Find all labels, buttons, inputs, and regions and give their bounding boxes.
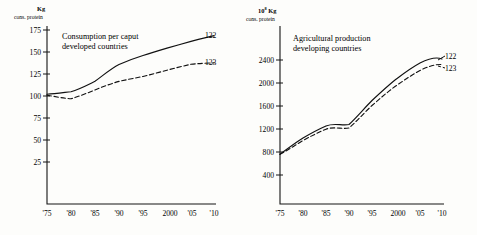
left-xtick-90: '90 xyxy=(115,209,124,218)
right-leader-123 xyxy=(438,66,445,68)
right-ytick-2400: 2400 xyxy=(259,56,274,65)
right-series-label-122: 122 xyxy=(445,52,457,61)
right-xtick-90: '90 xyxy=(345,209,354,218)
left-series-label-123: 123 xyxy=(205,58,217,67)
right-xtick-75: '75 xyxy=(276,209,285,218)
right-ytick-400: 400 xyxy=(263,171,275,180)
left-series-label-122: 122 xyxy=(205,31,217,40)
right-axis-unit-kg: Kg xyxy=(268,7,277,14)
right-xtick-2000: 2000 xyxy=(390,209,405,218)
right-series-label-123: 123 xyxy=(445,64,457,73)
left-axis-unit-sub: cons. protein xyxy=(14,14,43,20)
chart-panel-right: 108 Kg cons. protein 2400 2000 1600 1200… xyxy=(238,0,476,235)
left-xtick-95: '95 xyxy=(139,209,148,218)
chart-panel-left: Kg cons. protein 175 150 125 100 75 50 2… xyxy=(0,0,238,235)
left-ytick-100: 100 xyxy=(30,92,42,101)
left-chart-title-line1: Consumption per caput xyxy=(62,32,139,41)
right-chart-title-line1: Agricultural production xyxy=(293,34,371,43)
right-series-123-line xyxy=(280,64,442,154)
right-chart-title-line2: developing countries xyxy=(293,44,361,53)
right-ytick-1600: 1600 xyxy=(259,102,274,111)
left-chart-title-line2: developed countries xyxy=(62,42,128,51)
right-xtick-80: '80 xyxy=(299,209,308,218)
left-ytick-25: 25 xyxy=(33,158,41,167)
left-ytick-175: 175 xyxy=(30,26,42,35)
left-series-123-line xyxy=(47,63,214,99)
right-xtick-95: '95 xyxy=(368,209,377,218)
left-axes xyxy=(47,26,216,204)
left-ytick-125: 125 xyxy=(30,70,42,79)
left-xtick-05: '05 xyxy=(188,209,197,218)
left-xtick-75: '75 xyxy=(43,209,52,218)
right-xtick-10: '10 xyxy=(438,209,447,218)
right-ytick-1200: 1200 xyxy=(259,125,274,134)
figure-container: Kg cons. protein 175 150 125 100 75 50 2… xyxy=(0,0,477,235)
right-axis-unit: 108 Kg xyxy=(258,6,277,14)
left-axis-unit-main: Kg xyxy=(37,5,46,12)
left-xtick-10: '10 xyxy=(210,209,219,218)
left-ytick-150: 150 xyxy=(30,48,42,57)
right-xtick-05: '05 xyxy=(416,209,425,218)
right-axis-unit-sub: cons. protein xyxy=(246,16,275,22)
right-xtick-85: '85 xyxy=(322,209,331,218)
left-ytick-50: 50 xyxy=(33,136,41,145)
right-ytick-800: 800 xyxy=(263,148,275,157)
right-ytick-2000: 2000 xyxy=(259,79,274,88)
left-xtick-2000: 2000 xyxy=(162,209,177,218)
left-ytick-75: 75 xyxy=(33,114,41,123)
left-xtick-85: '85 xyxy=(91,209,100,218)
left-xtick-80: '80 xyxy=(67,209,76,218)
